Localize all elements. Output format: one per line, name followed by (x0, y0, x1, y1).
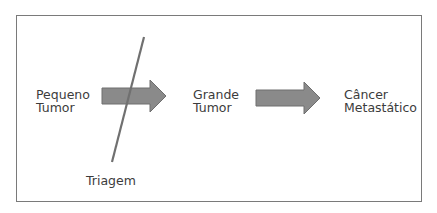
node-large-tumor: Grande Tumor (193, 88, 239, 114)
node-large-line2: Tumor (193, 101, 239, 114)
arrow-small-to-large (102, 80, 166, 112)
screening-label: Triagem (86, 174, 136, 187)
arrow-large-to-metastatic (256, 82, 320, 114)
node-metastatic-cancer: Câncer Metastático (344, 88, 417, 114)
node-small-tumor: Pequeno Tumor (36, 88, 90, 114)
node-metastatic-line2: Metastático (344, 101, 417, 114)
node-small-line2: Tumor (36, 101, 90, 114)
